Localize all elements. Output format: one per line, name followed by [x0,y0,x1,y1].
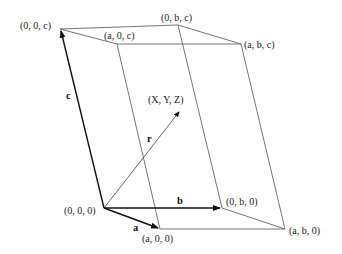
label-abc: (a, b, c) [244,39,275,51]
vector-b-label: b [177,195,183,206]
label-ab0: (a, b, 0) [289,225,320,237]
label-0b0: (0, b, 0) [226,196,258,208]
basis-vectors [61,31,220,228]
edge-a0c-a00 [117,44,160,229]
vector-c-label: c [66,90,71,101]
label-a00: (a, 0, 0) [142,233,173,245]
label-00c: (0, 0, c) [20,20,51,32]
edge-0b0-ab0 [222,208,285,229]
vector-a [104,208,158,228]
vector-r-line [104,112,179,208]
label-xyz: (X, Y, Z) [148,94,184,106]
edge-00c-0bc [60,25,178,29]
vector-a-label: a [133,222,139,233]
vector-r-label: r [147,133,152,144]
edge-0bc-abc [178,25,241,44]
label-origin: (0, 0, 0) [64,205,96,217]
vector-c [61,31,104,208]
unit-cell-diagram: (0, 0, 0) (a, 0, 0) (0, b, 0) (a, b, 0) … [0,0,342,254]
label-a0c: (a, 0, c) [104,30,135,42]
label-0bc: (0, b, c) [161,12,192,24]
edge-0bc-0b0 [178,25,222,208]
